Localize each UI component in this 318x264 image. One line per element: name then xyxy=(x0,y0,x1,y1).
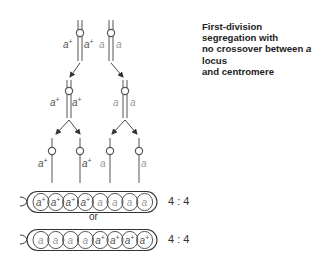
spore-genotype: a xyxy=(97,197,103,208)
arrow-icon xyxy=(111,63,123,77)
centromere-icon xyxy=(76,147,83,154)
allele-label: a+ xyxy=(72,96,82,108)
ascus-2: aaaaa+a+a+a+ xyxy=(20,230,157,251)
centromere-icon xyxy=(48,147,55,154)
allele-label: a+ xyxy=(82,157,92,169)
allele-label: a xyxy=(130,97,136,108)
arrow-icon xyxy=(70,63,80,77)
ascus-2-ratio: 4 : 4 xyxy=(168,233,189,245)
spore-genotype: a xyxy=(82,235,88,246)
dyad-a xyxy=(121,80,128,118)
allele-label: a+ xyxy=(38,157,48,169)
ascus-1: a+a+a+a+aaaa xyxy=(20,192,157,213)
arrow-icon xyxy=(56,120,69,134)
segregation-diagram: a+ a+ a a a+ a+ a a a+ a+ a a a+a+a xyxy=(0,0,318,264)
homolog-pair-a xyxy=(107,20,114,61)
allele-label: a xyxy=(141,158,147,169)
arrow-icon xyxy=(112,120,125,134)
homolog-pair-a-plus xyxy=(76,20,83,61)
allele-label: a xyxy=(116,39,122,50)
allele-label: a xyxy=(99,39,105,50)
chromatids xyxy=(48,138,142,183)
centromere-icon xyxy=(106,147,113,154)
allele-label: a+ xyxy=(50,96,60,108)
ascus-1-ratio: 4 : 4 xyxy=(168,195,189,207)
allele-label: a xyxy=(113,97,119,108)
spore-genotype: a xyxy=(112,197,118,208)
centromere-icon xyxy=(65,87,72,94)
spore-genotype: a xyxy=(38,235,44,246)
spore-genotype: a xyxy=(68,235,74,246)
arrow-icon xyxy=(69,120,80,134)
centromere-icon xyxy=(107,29,114,36)
or-separator: or xyxy=(89,211,98,222)
centromere-icon xyxy=(135,147,142,154)
allele-label: a+ xyxy=(63,38,73,50)
arrow-icon xyxy=(125,120,137,134)
allele-label: a+ xyxy=(84,38,94,50)
spore-genotype: a xyxy=(53,235,59,246)
centromere-icon xyxy=(76,29,83,36)
centromere-icon xyxy=(121,87,128,94)
spore-genotype: a xyxy=(127,197,133,208)
allele-label: a xyxy=(100,158,106,169)
spore-genotype: a xyxy=(142,197,148,208)
